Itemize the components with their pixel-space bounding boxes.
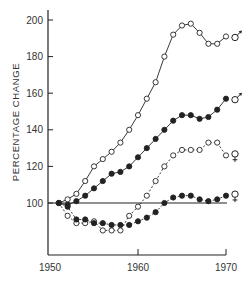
x-tick-label: 1960 — [127, 262, 150, 273]
data-point-marker — [197, 147, 202, 152]
data-point-marker — [127, 222, 132, 227]
data-point-marker — [109, 149, 114, 154]
data-point-marker — [215, 197, 220, 202]
series-male-open — [56, 21, 242, 206]
y-tick-label: 100 — [26, 198, 43, 209]
data-point-marker — [109, 222, 114, 227]
data-point-marker — [188, 21, 193, 26]
data-point-marker — [83, 178, 88, 183]
data-point-marker — [223, 34, 228, 39]
data-point-marker — [127, 164, 132, 169]
female-symbol-icon — [232, 151, 238, 157]
data-point-marker — [100, 156, 105, 161]
data-point-marker — [162, 54, 167, 59]
series-group — [56, 21, 242, 233]
data-point-marker — [162, 200, 167, 205]
data-point-marker — [118, 228, 123, 233]
data-point-marker — [162, 164, 167, 169]
x-tick-label: 1970 — [215, 262, 238, 273]
data-point-marker — [223, 153, 228, 158]
data-point-marker — [118, 169, 123, 174]
data-point-marker — [56, 200, 61, 205]
data-point-marker — [91, 221, 96, 226]
data-point-marker — [223, 96, 228, 101]
data-point-marker — [179, 193, 184, 198]
data-point-marker — [109, 171, 114, 176]
data-point-marker — [135, 204, 140, 209]
data-point-marker — [162, 127, 167, 132]
data-point-marker — [215, 107, 220, 112]
x-tick-label: 1950 — [39, 262, 62, 273]
data-point-marker — [127, 213, 132, 218]
data-point-marker — [153, 210, 158, 215]
data-point-marker — [171, 153, 176, 158]
data-point-marker — [135, 219, 140, 224]
data-point-marker — [74, 199, 79, 204]
data-point-marker — [179, 113, 184, 118]
series-male-filled — [56, 93, 242, 208]
data-point-marker — [153, 80, 158, 85]
data-point-marker — [74, 217, 79, 222]
data-point-marker — [188, 147, 193, 152]
line-chart: 100120140160180200195019601970 PERCENTAG… — [0, 0, 252, 282]
data-point-marker — [171, 32, 176, 37]
data-point-marker — [118, 140, 123, 145]
data-point-marker — [144, 193, 149, 198]
data-point-marker — [100, 228, 105, 233]
data-point-marker — [215, 140, 220, 145]
data-point-marker — [127, 127, 132, 132]
data-point-marker — [153, 136, 158, 141]
data-point-marker — [223, 193, 228, 198]
data-point-marker — [135, 155, 140, 160]
data-point-marker — [74, 191, 79, 196]
data-point-marker — [135, 113, 140, 118]
data-point-marker — [206, 114, 211, 119]
data-point-marker — [83, 193, 88, 198]
y-tick-label: 160 — [26, 88, 43, 99]
y-tick-label: 200 — [26, 15, 43, 26]
data-point-marker — [65, 213, 70, 218]
y-tick-label: 120 — [26, 161, 43, 172]
data-point-marker — [144, 215, 149, 220]
data-point-marker — [144, 96, 149, 101]
y-tick-label: 180 — [26, 51, 43, 62]
data-point-marker — [83, 217, 88, 222]
data-point-marker — [188, 193, 193, 198]
data-point-marker — [153, 178, 158, 183]
data-point-marker — [197, 197, 202, 202]
data-point-marker — [144, 146, 149, 151]
data-point-marker — [109, 228, 114, 233]
data-point-marker — [171, 118, 176, 123]
female-symbol-icon — [232, 191, 238, 197]
data-point-marker — [171, 195, 176, 200]
series-line — [59, 24, 226, 203]
data-point-marker — [206, 41, 211, 46]
data-point-marker — [91, 164, 96, 169]
data-point-marker — [188, 113, 193, 118]
y-tick-label: 140 — [26, 124, 43, 135]
data-point-marker — [100, 221, 105, 226]
data-point-marker — [65, 197, 70, 202]
data-point-marker — [215, 41, 220, 46]
data-point-marker — [197, 116, 202, 121]
data-point-marker — [206, 199, 211, 204]
data-point-marker — [91, 186, 96, 191]
data-point-marker — [179, 23, 184, 28]
data-point-marker — [206, 140, 211, 145]
data-point-marker — [100, 178, 105, 183]
data-point-marker — [118, 222, 123, 227]
data-point-marker — [179, 147, 184, 152]
data-point-marker — [197, 30, 202, 35]
data-point-marker — [65, 204, 70, 209]
y-axis-title: PERCENTAGE CHANGE — [10, 63, 21, 181]
